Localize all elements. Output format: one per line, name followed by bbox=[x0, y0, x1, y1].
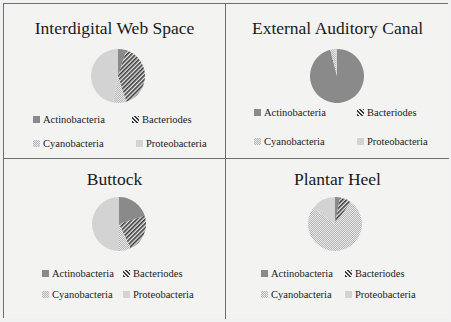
legend: Actinobacteria Bacteriodes Cyanobacteria… bbox=[226, 4, 449, 159]
legend-item-cyanobacteria: Cyanobacteria bbox=[33, 138, 104, 149]
legend: Actinobacteria Bacteriodes Cyanobacteria… bbox=[226, 159, 449, 319]
legend-item-proteobacteria: Proteobacteria bbox=[345, 289, 416, 300]
cyanobacteria-swatch-icon bbox=[42, 291, 49, 298]
legend-item-cyanobacteria: Cyanobacteria bbox=[42, 289, 113, 300]
legend: Actinobacteria Bacteriodes Cyanobacteria… bbox=[4, 159, 226, 319]
legend-item-actinobacteria: Actinobacteria bbox=[261, 268, 333, 279]
legend-item-bacteriodes: Bacteriodes bbox=[357, 107, 417, 118]
actinobacteria-swatch-icon bbox=[42, 270, 49, 277]
proteobacteria-swatch-icon bbox=[357, 138, 364, 145]
cyanobacteria-swatch-icon bbox=[33, 140, 40, 147]
bacteriodes-swatch-icon bbox=[357, 109, 364, 116]
legend-item-proteobacteria: Proteobacteria bbox=[136, 138, 207, 149]
legend-item-actinobacteria: Actinobacteria bbox=[33, 114, 105, 125]
legend-item-actinobacteria: Actinobacteria bbox=[42, 268, 114, 279]
chart-panel-external-auditory: External Auditory Canal Actinobacteria B… bbox=[226, 4, 449, 159]
chart-panel-plantar-heel: Plantar Heel Actinobacteria Bacteriodes … bbox=[226, 159, 449, 319]
legend-item-proteobacteria: Proteobacteria bbox=[357, 136, 428, 147]
legend-item-bacteriodes: Bacteriodes bbox=[345, 268, 405, 279]
legend-item-actinobacteria: Actinobacteria bbox=[254, 107, 326, 118]
proteobacteria-swatch-icon bbox=[136, 140, 143, 147]
actinobacteria-swatch-icon bbox=[261, 270, 268, 277]
legend-item-bacteriodes: Bacteriodes bbox=[123, 268, 183, 279]
legend-item-bacteriodes: Bacteriodes bbox=[132, 114, 192, 125]
chart-panel-interdigital: Interdigital Web Space Actinobacteria Ba… bbox=[4, 4, 226, 159]
actinobacteria-swatch-icon bbox=[33, 116, 40, 123]
chart-grid: Interdigital Web Space Actinobacteria Ba… bbox=[3, 3, 448, 318]
legend-item-cyanobacteria: Cyanobacteria bbox=[261, 289, 332, 300]
legend: Actinobacteria Bacteriodes Cyanobacteria… bbox=[4, 4, 226, 159]
bacteriodes-swatch-icon bbox=[123, 270, 130, 277]
bacteriodes-swatch-icon bbox=[345, 270, 352, 277]
proteobacteria-swatch-icon bbox=[345, 291, 352, 298]
proteobacteria-swatch-icon bbox=[123, 291, 130, 298]
cyanobacteria-swatch-icon bbox=[254, 138, 261, 145]
legend-item-cyanobacteria: Cyanobacteria bbox=[254, 136, 325, 147]
legend-item-proteobacteria: Proteobacteria bbox=[123, 289, 194, 300]
bacteriodes-swatch-icon bbox=[132, 116, 139, 123]
chart-panel-buttock: Buttock Actinobacteria Bacteriodes Cyano… bbox=[4, 159, 226, 319]
actinobacteria-swatch-icon bbox=[254, 109, 261, 116]
cyanobacteria-swatch-icon bbox=[261, 291, 268, 298]
